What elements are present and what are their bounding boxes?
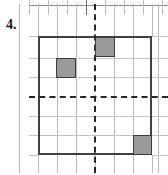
y-axis-dashed [94,4,96,173]
top-tick [143,0,144,15]
shaded-cell-upper-left [56,58,76,78]
top-tick [67,0,68,15]
grid-line-vertical [19,4,20,173]
top-tick [124,0,125,15]
problem-number-label: 4. [6,17,17,33]
grid-line-horizontal [152,36,168,37]
grid-line-vertical [152,4,153,36]
grid-line-horizontal [29,155,38,156]
figure-container: 4. [0,0,168,175]
top-tick [86,0,87,15]
top-tick [29,0,30,15]
grid-line-vertical [38,155,39,173]
shaded-cell-top-center [95,37,115,57]
top-tick [48,0,49,15]
grid-line-vertical [152,155,153,173]
grid-line-horizontal [152,155,168,156]
grid-line-vertical [158,4,159,173]
grid-line-horizontal [29,36,38,37]
shaded-cell-bottom-right [133,135,152,155]
grid-line-vertical [38,4,39,36]
top-rule [29,5,168,6]
top-tick [105,0,106,15]
top-tick [162,0,163,15]
x-axis-dashed [29,96,168,98]
